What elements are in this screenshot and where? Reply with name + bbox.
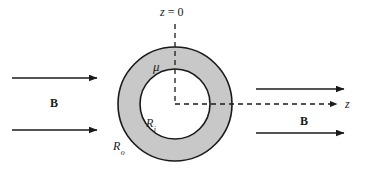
permeability-label: μ xyxy=(153,60,160,73)
outer-radius-label: Ro xyxy=(113,140,124,155)
field-label-left: B xyxy=(50,97,58,109)
inner-radius-subscript: i xyxy=(154,125,156,134)
field-label-right: B xyxy=(300,115,308,127)
diagram-canvas xyxy=(0,0,365,174)
z-origin-label: z = 0 xyxy=(160,6,183,18)
z-axis-label: z xyxy=(345,98,350,110)
inner-radius-label: Ri xyxy=(146,117,156,132)
outer-radius-subscript: o xyxy=(121,148,125,157)
outer-radius-symbol: R xyxy=(113,139,120,153)
magnetic-shield-diagram: z = 0 z μ Ri Ro B B xyxy=(0,0,365,174)
inner-radius-symbol: R xyxy=(146,116,153,130)
z-origin-equals-zero: = 0 xyxy=(165,5,184,19)
